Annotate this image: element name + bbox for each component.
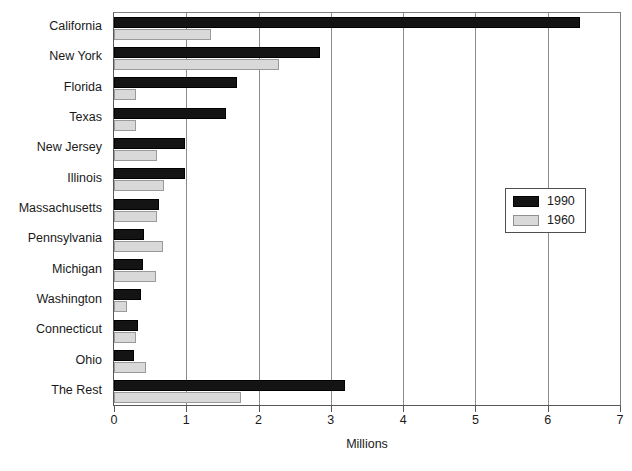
bar	[114, 168, 185, 179]
x-tick-label: 5	[472, 413, 479, 428]
bar	[114, 59, 279, 70]
bar	[114, 271, 156, 282]
gridline-3	[331, 13, 332, 405]
gridline-2	[259, 13, 260, 405]
bar	[114, 17, 580, 28]
bar	[114, 350, 134, 361]
bar	[114, 150, 157, 161]
bar	[114, 289, 141, 300]
bar	[114, 77, 237, 88]
category-label: California	[49, 20, 102, 33]
category-label: Pennsylvania	[28, 232, 102, 245]
x-tick-label: 7	[617, 413, 624, 428]
x-tick-label: 3	[327, 413, 334, 428]
x-tick	[259, 406, 260, 412]
bar	[114, 392, 241, 403]
gridline-5	[475, 13, 476, 405]
x-tick	[186, 406, 187, 412]
x-tick-label: 0	[111, 413, 118, 428]
x-tick	[475, 406, 476, 412]
bar	[114, 211, 157, 222]
x-tick-label: 4	[400, 413, 407, 428]
gridline-1	[186, 13, 187, 405]
bar	[114, 301, 127, 312]
x-tick	[114, 406, 115, 412]
bar	[114, 180, 164, 191]
bar	[114, 332, 136, 343]
bar-chart: CaliforniaNew YorkFloridaTexasNew Jersey…	[0, 0, 632, 471]
category-label: Michigan	[52, 263, 102, 276]
bar	[114, 29, 211, 40]
category-label: Illinois	[67, 172, 102, 185]
bar	[114, 380, 345, 391]
bar	[114, 259, 143, 270]
legend-swatch-1990	[513, 196, 539, 207]
x-axis-ticks	[113, 406, 621, 412]
bar	[114, 89, 136, 100]
category-label: Massachusetts	[19, 202, 102, 215]
category-label: New Jersey	[37, 141, 102, 154]
bar	[114, 320, 138, 331]
category-label: Ohio	[76, 354, 102, 367]
bar	[114, 229, 144, 240]
category-label: The Rest	[51, 384, 102, 397]
category-label: New York	[49, 50, 102, 63]
x-tick-label: 1	[183, 413, 190, 428]
x-tick-label: 2	[255, 413, 262, 428]
legend: 1990 1960	[505, 188, 586, 233]
category-axis-labels: CaliforniaNew YorkFloridaTexasNew Jersey…	[0, 12, 108, 406]
x-tick	[403, 406, 404, 412]
bar	[114, 199, 159, 210]
gridline-4	[403, 13, 404, 405]
x-axis-tick-labels: 01234567	[113, 413, 621, 429]
bar	[114, 47, 320, 58]
legend-item-1960: 1960	[513, 214, 575, 227]
bar	[114, 120, 136, 131]
category-label: Florida	[64, 81, 102, 94]
legend-label-1990: 1990	[547, 195, 575, 208]
category-label: Connecticut	[36, 323, 102, 336]
legend-item-1990: 1990	[513, 195, 575, 208]
legend-swatch-1960	[513, 215, 539, 226]
bar	[114, 138, 185, 149]
x-tick	[548, 406, 549, 412]
x-axis-title: Millions	[113, 437, 621, 451]
category-label: Texas	[69, 111, 102, 124]
bar	[114, 362, 146, 373]
bar	[114, 241, 163, 252]
legend-label-1960: 1960	[547, 214, 575, 227]
x-tick-label: 6	[544, 413, 551, 428]
category-label: Washington	[36, 293, 102, 306]
x-tick	[331, 406, 332, 412]
bar	[114, 108, 226, 119]
x-tick	[620, 406, 621, 412]
